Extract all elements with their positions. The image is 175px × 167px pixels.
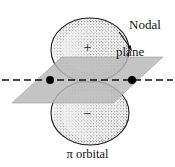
nodal-plane-label-line2: plane [116,45,161,58]
figure-caption: π orbital [0,148,175,161]
nucleus-left [46,76,54,84]
nodal-plane-label-line1: Nodal [129,17,161,32]
nodal-plane-label: Nodal plane [116,5,161,85]
lower-lobe-phase-sign: − [0,107,175,121]
pi-orbital-figure: + − Nodal plane π orbital [0,0,175,167]
